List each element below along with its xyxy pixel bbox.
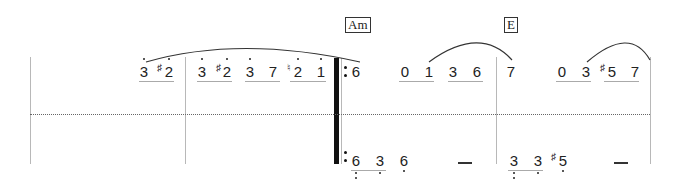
note: 2 bbox=[292, 64, 304, 79]
beam-underline bbox=[399, 81, 434, 82]
note: 1 bbox=[423, 64, 435, 79]
note: 2 bbox=[163, 64, 175, 79]
note: 3 bbox=[508, 153, 520, 168]
octave-dot-below bbox=[513, 177, 515, 179]
note: 6 bbox=[350, 153, 362, 168]
beam-underline bbox=[290, 81, 326, 82]
beam-underline bbox=[197, 81, 232, 82]
note: 6 bbox=[350, 64, 362, 79]
note: 3 bbox=[196, 64, 208, 79]
octave-dot-below bbox=[379, 172, 381, 174]
note: 7 bbox=[505, 64, 517, 79]
note: 3 bbox=[244, 64, 256, 79]
note: 3 bbox=[374, 153, 386, 168]
note: 6 bbox=[398, 153, 410, 168]
note: 3 bbox=[532, 153, 544, 168]
note: 2 bbox=[221, 64, 233, 79]
octave-dot-below bbox=[537, 172, 539, 174]
note: 7 bbox=[629, 64, 641, 79]
sharp-accidental: ♯ bbox=[600, 63, 605, 73]
octave-dot-below bbox=[403, 170, 405, 172]
note: 0 bbox=[556, 64, 568, 79]
note: 3 bbox=[447, 64, 459, 79]
octave-dot-below bbox=[355, 172, 357, 174]
note: 3 bbox=[580, 64, 592, 79]
note: 1 bbox=[315, 64, 327, 79]
note: 5 bbox=[557, 153, 569, 168]
sharp-accidental: ♯ bbox=[157, 63, 162, 73]
octave-dot-above bbox=[143, 58, 145, 60]
beam-underline bbox=[556, 81, 591, 82]
octave-dot-below bbox=[513, 172, 515, 174]
octave-dot-below bbox=[355, 177, 357, 179]
octave-dot-above bbox=[249, 58, 251, 60]
sharp-accidental: ♯ bbox=[551, 152, 556, 162]
note: 5 bbox=[606, 64, 618, 79]
sustain-dash bbox=[458, 162, 472, 164]
beam-underline bbox=[351, 170, 386, 171]
note: 6 bbox=[471, 64, 483, 79]
octave-dot-above bbox=[201, 58, 203, 60]
octave-dot-above bbox=[297, 58, 299, 60]
slur-lines bbox=[0, 0, 673, 189]
note: 0 bbox=[399, 64, 411, 79]
octave-dot-above bbox=[320, 58, 322, 60]
sustain-dash bbox=[614, 162, 628, 164]
beam-underline bbox=[448, 81, 483, 82]
note: 3 bbox=[138, 64, 150, 79]
beam-underline bbox=[245, 81, 280, 82]
beam-underline bbox=[139, 81, 174, 82]
note: 7 bbox=[267, 64, 279, 79]
octave-dot-above bbox=[226, 58, 228, 60]
octave-dot-below bbox=[562, 170, 564, 172]
natural-accidental: ♮ bbox=[287, 63, 291, 73]
octave-dot-above bbox=[168, 58, 170, 60]
beam-underline bbox=[604, 81, 639, 82]
beam-underline bbox=[508, 170, 543, 171]
